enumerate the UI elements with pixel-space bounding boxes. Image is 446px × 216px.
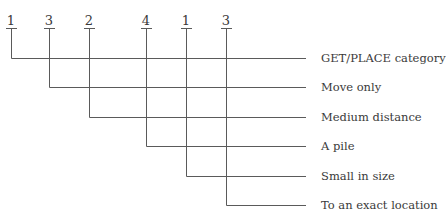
code-digit-category: 1 — [4, 14, 18, 27]
code-digit-size: 1 — [179, 14, 193, 27]
code-digit-distance: 2 — [82, 14, 96, 27]
code-digit-move: 3 — [42, 14, 56, 27]
code-digit-pile: 4 — [139, 14, 153, 27]
label-a-pile: A pile — [321, 140, 354, 152]
label-exact-location: To an exact location — [321, 199, 438, 211]
label-get-place-category: GET/PLACE category — [321, 52, 446, 64]
label-medium-distance: Medium distance — [321, 111, 422, 123]
code-digit-location: 3 — [219, 14, 233, 27]
label-move-only: Move only — [321, 81, 381, 93]
label-small-in-size: Small in size — [321, 170, 395, 182]
